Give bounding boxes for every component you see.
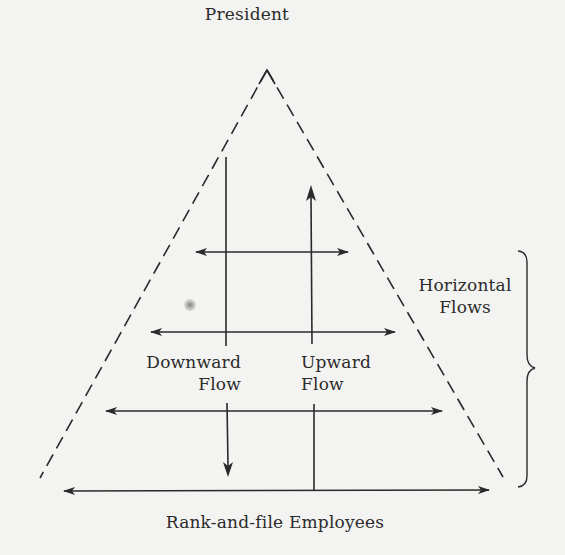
horizontal-flows-label-line1: Horizontal <box>412 274 518 296</box>
upward-flow-label-line1: Upward <box>301 351 371 373</box>
rank-and-file-label: Rank-and-file Employees <box>0 511 550 533</box>
horizontal-flows-brace <box>518 251 535 487</box>
horizontal-flows-label-line2: Flows <box>412 296 518 318</box>
pyramid-left-edge <box>40 70 267 478</box>
downward-flow-label-line2: Flow <box>120 373 241 395</box>
horizontal-flows-label: Horizontal Flows <box>412 274 518 318</box>
upward-flow-label: Upward Flow <box>301 351 371 395</box>
communication-flow-diagram: President Downward Flow Upward Flow Hori… <box>0 0 565 555</box>
downward-flow-label-line1: Downward <box>120 351 241 373</box>
president-label: President <box>0 3 494 25</box>
downward-flow-label: Downward Flow <box>120 351 241 395</box>
horizontal-arrow-4 <box>64 490 489 491</box>
pyramid-apex <box>259 70 275 84</box>
upward-flow-label-line2: Flow <box>301 373 371 395</box>
print-smudge <box>184 299 196 311</box>
upward-flow-arrow <box>306 185 316 490</box>
downward-flow-arrow <box>223 157 233 477</box>
